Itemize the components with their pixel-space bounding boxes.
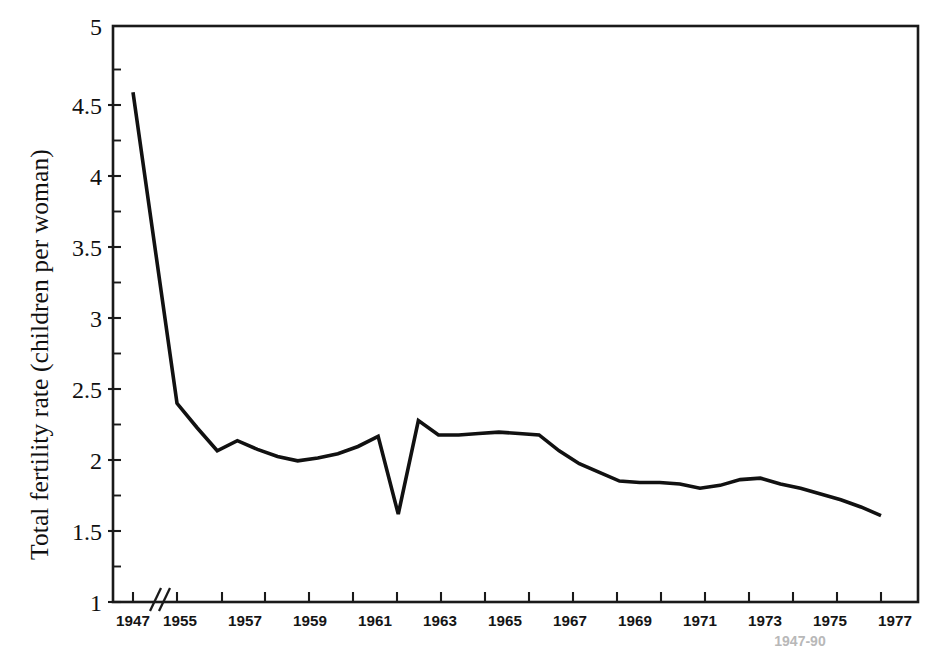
y-tick-label: 1.5 — [72, 519, 102, 545]
x-tick-label: 1957 — [228, 612, 262, 629]
x-tick-label: 1975 — [813, 612, 847, 629]
y-tick-label: 4 — [90, 164, 102, 190]
x-tick-labels: 1947 1955 1957 1959 1961 1963 1965 1967 … — [116, 612, 912, 629]
x-axis-break-icon — [150, 588, 170, 611]
x-tick-label: 1969 — [618, 612, 652, 629]
fertility-line-chart: Total fertility rate (children per woman… — [0, 0, 933, 648]
x-tick-label: 1959 — [293, 612, 327, 629]
x-tick-label: 1955 — [163, 612, 197, 629]
y-tick-label: 3.5 — [72, 235, 102, 261]
x-tick-label: 1977 — [878, 612, 912, 629]
y-tick-label: 2 — [90, 448, 102, 474]
y-tick-label: 3 — [90, 306, 102, 332]
y-tick-label: 5 — [90, 14, 102, 40]
x-tick-label: 1965 — [488, 612, 522, 629]
x-tick-label: 1963 — [423, 612, 457, 629]
x-tick-label: 1947 — [116, 612, 150, 629]
y-tick-label: 2.5 — [72, 377, 102, 403]
x-tick-label: 1971 — [683, 612, 717, 629]
figure-caption-partial: 1947-90 — [774, 633, 826, 648]
y-tick-label: 4.5 — [72, 93, 102, 119]
y-tick-labels: 1 1.5 2 2.5 3 3.5 4 4.5 5 — [72, 14, 102, 616]
x-ticks — [133, 592, 881, 602]
y-tick-label: 1 — [90, 590, 102, 616]
x-tick-label: 1967 — [553, 612, 587, 629]
chart-figure: Total fertility rate (children per woman… — [0, 0, 933, 648]
fertility-rate-series-line — [133, 92, 881, 515]
x-tick-label: 1961 — [358, 612, 392, 629]
x-tick-label: 1973 — [748, 612, 782, 629]
y-axis-label: Total fertility rate (children per woman… — [25, 149, 54, 560]
plot-frame — [113, 26, 918, 602]
